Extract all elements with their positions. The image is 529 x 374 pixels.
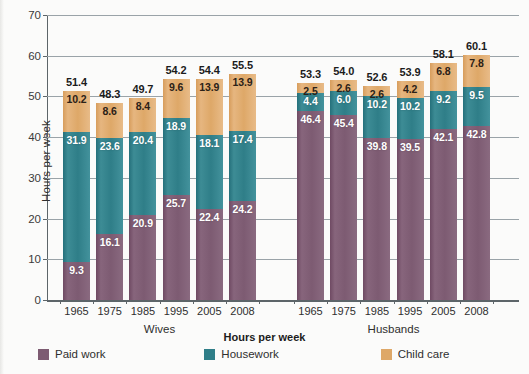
bar-segment-paid[interactable]: 45.4	[330, 115, 357, 300]
bar-segment-childcare[interactable]: 4.2	[397, 81, 424, 98]
x-axis-tick-mark	[427, 300, 428, 304]
bar-husbands-1985[interactable]: 39.810.22.6	[363, 86, 390, 300]
bar-segment-childcare[interactable]: 13.9	[229, 74, 256, 131]
bar-segment-housework[interactable]: 31.9	[63, 132, 90, 262]
x-axis-tick-label: 1975	[331, 305, 355, 317]
segment-value-label: 45.4	[330, 117, 357, 129]
x-axis-tick-label: 1985	[131, 305, 155, 317]
bar-total-label: 60.1	[466, 40, 487, 52]
bar-husbands-2005[interactable]: 42.19.26.8	[430, 63, 457, 300]
segment-value-label: 2.6	[330, 82, 357, 94]
segment-value-label: 13.9	[229, 76, 256, 88]
bar-segment-paid[interactable]: 42.8	[463, 126, 490, 300]
bar-husbands-1995[interactable]: 39.510.24.2	[397, 81, 424, 300]
bar-wives-1995[interactable]: 25.718.99.6	[163, 79, 190, 300]
segment-value-label: 6.0	[330, 93, 357, 105]
segment-value-label: 9.6	[163, 81, 190, 93]
bar-segment-paid[interactable]: 24.2	[229, 201, 256, 300]
x-axis-tick-label: 1965	[64, 305, 88, 317]
x-axis-tick-label: 1995	[398, 305, 422, 317]
bar-husbands-1975[interactable]: 45.46.02.6	[330, 80, 357, 300]
x-axis-tick-mark	[126, 300, 127, 304]
bar-segment-housework[interactable]: 18.1	[196, 135, 223, 209]
bar-segment-housework[interactable]: 9.2	[430, 91, 457, 128]
segment-value-label: 4.2	[397, 83, 424, 95]
bar-segment-childcare[interactable]: 8.6	[96, 103, 123, 138]
bar-segment-paid[interactable]: 39.5	[397, 139, 424, 300]
bar-segment-paid[interactable]: 9.3	[63, 262, 90, 300]
x-axis-tick-mark	[360, 300, 361, 304]
plot-area: Hours per week 0102030405060709.331.910.…	[47, 15, 519, 300]
y-axis-tick-label: 20	[28, 213, 41, 225]
segment-value-label: 18.9	[163, 120, 190, 132]
bar-segment-childcare[interactable]: 10.2	[63, 91, 90, 133]
bar-segment-childcare[interactable]: 2.6	[330, 80, 357, 91]
bar-segment-paid[interactable]: 39.8	[363, 138, 390, 300]
bar-husbands-1965[interactable]: 46.44.42.5	[297, 83, 324, 300]
segment-value-label: 23.6	[96, 140, 123, 152]
x-axis-tick-label: 1975	[97, 305, 121, 317]
segment-value-label: 17.4	[229, 133, 256, 145]
bar-husbands-2008[interactable]: 42.89.57.8	[463, 55, 490, 300]
bar-wives-2005[interactable]: 22.418.113.9	[196, 79, 223, 300]
x-axis-line	[47, 300, 519, 302]
x-axis-tick-mark	[60, 300, 61, 304]
y-axis-tick-mark	[43, 219, 47, 220]
bar-segment-housework[interactable]: 17.4	[229, 131, 256, 202]
bar-segment-housework[interactable]: 23.6	[96, 138, 123, 234]
bar-segment-childcare[interactable]: 2.5	[297, 83, 324, 93]
bar-segment-childcare[interactable]: 9.6	[163, 79, 190, 118]
x-axis-tick-label: 2008	[230, 305, 254, 317]
segment-value-label: 7.8	[463, 57, 490, 69]
x-axis-tick-mark	[226, 300, 227, 304]
legend-item-childcare[interactable]: Child care	[353, 348, 529, 360]
bar-segment-paid[interactable]: 20.9	[129, 215, 156, 300]
bar-segment-housework[interactable]: 18.9	[163, 118, 190, 195]
y-axis-tick-mark	[43, 259, 47, 260]
segment-value-label: 2.5	[297, 85, 324, 97]
segment-value-label: 10.2	[63, 93, 90, 105]
x-axis-tick-mark	[93, 300, 94, 304]
bar-segment-paid[interactable]: 46.4	[297, 111, 324, 300]
bar-segment-paid[interactable]: 16.1	[96, 234, 123, 300]
bar-segment-childcare[interactable]: 2.6	[363, 86, 390, 97]
bar-segment-paid[interactable]: 42.1	[430, 129, 457, 300]
bar-segment-childcare[interactable]: 8.4	[129, 98, 156, 132]
bar-wives-2008[interactable]: 24.217.413.9	[229, 74, 256, 300]
legend-item-paid[interactable]: Paid work	[0, 348, 186, 360]
segment-value-label: 9.3	[63, 264, 90, 276]
bar-segment-childcare[interactable]: 6.8	[430, 63, 457, 91]
x-axis-tick-mark	[259, 300, 260, 304]
legend-label: Paid work	[55, 348, 106, 360]
x-axis-tick-label: 1985	[365, 305, 389, 317]
y-axis-tick-mark	[43, 96, 47, 97]
segment-value-label: 20.4	[129, 134, 156, 146]
bar-segment-housework[interactable]: 10.2	[363, 96, 390, 138]
gridline	[47, 15, 519, 16]
segment-value-label: 42.8	[463, 128, 490, 140]
bar-segment-housework[interactable]: 6.0	[330, 91, 357, 115]
bar-segment-housework[interactable]: 9.5	[463, 87, 490, 126]
segment-value-label: 18.1	[196, 137, 223, 149]
segment-value-label: 6.8	[430, 65, 457, 77]
bar-segment-childcare[interactable]: 7.8	[463, 55, 490, 87]
bar-wives-1985[interactable]: 20.920.48.4	[129, 98, 156, 300]
bar-wives-1965[interactable]: 9.331.910.2	[63, 91, 90, 300]
y-axis-tick-mark	[43, 178, 47, 179]
x-axis-tick-mark	[460, 300, 461, 304]
bar-segment-housework[interactable]: 10.2	[397, 98, 424, 140]
bar-segment-housework[interactable]: 20.4	[129, 132, 156, 215]
bar-segment-paid[interactable]: 25.7	[163, 195, 190, 300]
bar-wives-1975[interactable]: 16.123.68.6	[96, 103, 123, 300]
x-axis-tick-mark	[294, 300, 295, 304]
y-axis-title: Hours per week	[40, 120, 52, 202]
y-axis-tick-mark	[43, 300, 47, 301]
legend-swatch-housework	[204, 349, 215, 360]
bar-segment-childcare[interactable]: 13.9	[196, 79, 223, 136]
x-axis-tick-mark	[193, 300, 194, 304]
legend: Paid workHouseworkChild care	[0, 348, 529, 360]
segment-value-label: 9.2	[430, 93, 457, 105]
legend-item-housework[interactable]: Housework	[186, 348, 352, 360]
segment-value-label: 42.1	[430, 131, 457, 143]
bar-segment-paid[interactable]: 22.4	[196, 209, 223, 300]
